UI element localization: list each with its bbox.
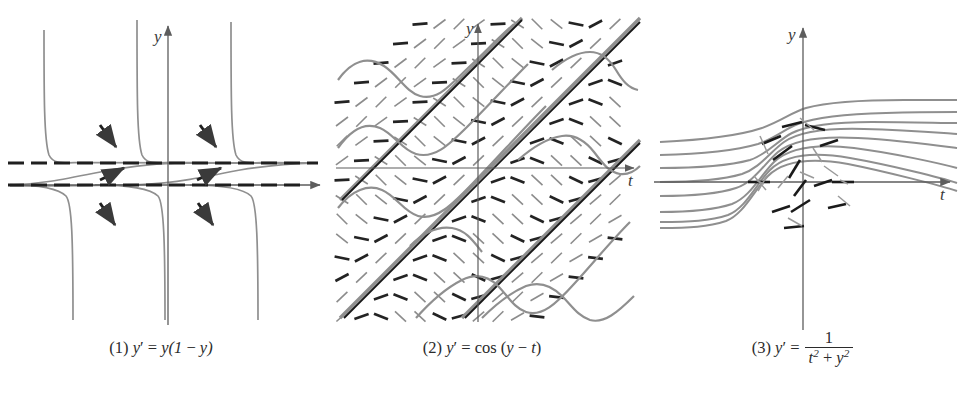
slope-mark [551,155,562,165]
slope-mark [571,233,582,244]
slope-mark [452,63,467,64]
panel-2-caption-minus: − [518,338,527,357]
slope-mark [434,194,445,204]
slope-mark [530,216,544,222]
slope-mark [374,218,389,221]
slope-mark [551,77,562,87]
slope-mark [491,255,505,261]
field-mark [784,226,804,228]
slope-mark [395,311,406,321]
panel-3-y-axis-label: y [786,25,796,44]
panel-2-caption-fn: cos [475,338,497,357]
den-plus: + [823,348,832,367]
slope-mark [454,253,465,263]
slope-mark [590,136,601,146]
slope-mark [374,295,388,300]
slope-mark [354,160,369,161]
slope-mark [609,215,622,223]
fraction-numerator: 1 [805,329,854,348]
slope-mark [532,97,543,107]
slope-mark [569,40,582,47]
slope-mark [531,39,543,48]
slope-mark [492,78,504,87]
slope-mark [336,117,348,126]
slope-mark [569,119,583,125]
slope-mark [354,314,368,319]
panel-3-caption-eq: = [790,338,799,357]
panel-1-caption-prime: ′ [140,338,144,357]
den-t-exp: 2 [813,346,819,358]
slope-mark [413,256,427,261]
slope-mark [432,236,446,241]
slope-mark [589,99,603,105]
slope-mark [356,272,367,282]
slope-mark [452,294,466,300]
slope-mark [531,293,544,301]
slope-mark [512,38,523,49]
slope-mark [491,178,505,183]
panel-3-caption-prime: ′ [782,338,786,357]
slope-mark [375,195,387,204]
slope-mark [512,58,524,67]
den-y-exp: 2 [844,346,850,358]
slope-mark [374,141,389,142]
slope-mark [414,156,426,165]
slope-mark [335,101,350,102]
slope-mark [354,82,369,83]
slope-mark [493,58,504,69]
field-mark [772,206,790,212]
slope-mark [569,177,583,183]
slope-mark [453,39,465,48]
slope-mark [610,194,621,205]
field-mark [828,204,846,208]
panel-2-caption-arg-close: ) [536,338,542,357]
panel-2-caption-arg-y: y [506,338,513,357]
panel-2-caption-eq: = [461,338,470,357]
slope-mark [512,194,523,204]
slope-mark [511,235,525,241]
slope-mark [512,116,523,126]
slope-mark [590,38,601,48]
direction-arrow-down-right-top [200,125,216,147]
panel-3-caption: (3) y′ = 1 t2 + y2 [642,330,964,368]
panel-1-caption-index: (1) [109,338,128,357]
slope-mark [569,100,583,105]
slope-mark [354,237,369,240]
slope-mark [355,255,368,262]
slope-mark [609,175,620,185]
panel-1-y-axis-label: y [152,27,162,46]
slope-mark [393,121,408,122]
slope-mark [493,233,504,243]
slope-mark [395,175,407,184]
panel-2-y-axis-label: y [464,19,474,38]
panel-1-caption-eq: = [148,338,157,357]
panel-2-plot: y t [322,0,642,340]
slope-mark [493,311,504,322]
slope-mark [413,275,427,281]
slope-mark [336,156,348,165]
slope-mark [452,217,466,222]
slope-mark [415,292,426,302]
slope-mark [491,197,505,203]
slope-mark [432,159,447,162]
slope-mark [393,43,408,44]
field-mark-light [788,218,802,226]
slope-mark [491,24,506,25]
slope-mark [434,20,446,29]
slope-mark [493,214,504,224]
slope-mark [551,175,562,185]
slope-mark [530,316,545,318]
slope-mark [590,116,601,126]
slope-mark [356,214,368,223]
panel-3-caption-index: (3) [752,338,771,357]
slope-mark [335,257,350,260]
slope-mark [532,272,543,283]
slope-mark [434,272,445,282]
slope-mark [608,80,622,86]
field-mark-light [760,136,768,154]
direction-arrows [100,125,221,225]
slope-mark [434,116,445,127]
figure-root: y t (1) y′ = y(1 − y) [0,0,964,401]
slope-mark [452,236,466,242]
slope-mark [335,274,348,281]
